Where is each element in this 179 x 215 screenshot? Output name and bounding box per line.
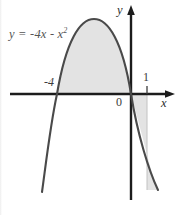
x-tick-label-neg4: -4 — [44, 76, 54, 88]
y-axis-label: y — [117, 4, 123, 17]
shaded-region-below-axis — [131, 94, 158, 190]
equation-exponent: 2 — [63, 26, 67, 35]
equation-main-text: y = -4x - x — [9, 27, 63, 41]
shaded-region-above-axis — [57, 19, 131, 94]
x-axis-label: x — [161, 97, 167, 110]
x-tick-label-one: 1 — [143, 71, 149, 83]
parabola-figure: y = -4x - x2 -4 0 1 x y — [0, 0, 179, 215]
equation-annotation: y = -4x - x2 — [9, 27, 68, 41]
y-axis-arrowhead — [127, 5, 135, 15]
origin-label: 0 — [116, 96, 122, 108]
